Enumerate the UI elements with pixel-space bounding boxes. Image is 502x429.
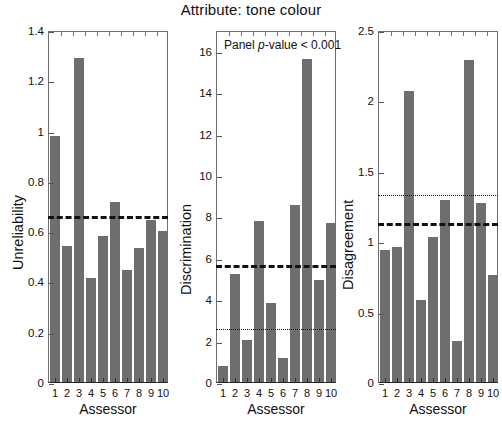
x-tick-label-5: 5 bbox=[268, 388, 274, 399]
y-tick bbox=[49, 183, 54, 184]
bar-assessor-8 bbox=[464, 60, 474, 382]
y-tick bbox=[379, 173, 384, 174]
y-tick-label: 10 bbox=[199, 171, 212, 183]
plot-inner: 00.20.40.60.811.21.412345678910 bbox=[49, 32, 167, 382]
top-minor-tick bbox=[463, 32, 464, 36]
bar-assessor-10 bbox=[158, 231, 168, 382]
x-tick bbox=[55, 378, 56, 382]
plot-area-discrimination: 024681012141612345678910 Panel p-value <… bbox=[216, 31, 336, 383]
y-tick-label: 1.4 bbox=[28, 26, 44, 38]
bar-assessor-2 bbox=[392, 247, 402, 382]
x-tick-label-7: 7 bbox=[454, 388, 460, 399]
x-tick bbox=[409, 378, 410, 382]
y-tick-label: 0.4 bbox=[28, 278, 44, 290]
bar-assessor-3 bbox=[74, 58, 84, 382]
y-tick bbox=[379, 384, 384, 385]
x-tick bbox=[433, 378, 434, 382]
x-axis-title-discrimination: Assessor bbox=[216, 401, 336, 417]
y-tick bbox=[217, 94, 222, 95]
top-minor-tick bbox=[145, 32, 146, 36]
x-tick bbox=[91, 378, 92, 382]
top-minor-tick bbox=[439, 32, 440, 36]
annotation-italic-p: p bbox=[258, 38, 265, 52]
top-minor-tick bbox=[325, 32, 326, 36]
y-tick bbox=[217, 301, 222, 302]
x-tick-label-7: 7 bbox=[292, 388, 298, 399]
x-axis-title-disagreement: Assessor bbox=[378, 401, 498, 417]
top-minor-tick bbox=[109, 32, 110, 36]
bar-assessor-8 bbox=[302, 59, 312, 382]
x-tick bbox=[235, 378, 236, 382]
x-tick bbox=[271, 378, 272, 382]
x-tick bbox=[259, 378, 260, 382]
top-minor-tick bbox=[277, 32, 278, 36]
x-tick-label-3: 3 bbox=[406, 388, 412, 399]
x-tick-label-9: 9 bbox=[478, 388, 484, 399]
top-minor-tick bbox=[313, 32, 314, 36]
y-tick-label: 0.8 bbox=[28, 177, 44, 189]
y-tick bbox=[49, 384, 54, 385]
x-tick-label-10: 10 bbox=[487, 388, 499, 399]
top-minor-tick bbox=[403, 32, 404, 36]
y-axis-title-discrimination: Discrimination bbox=[178, 204, 194, 295]
top-minor-tick bbox=[427, 32, 428, 36]
y-tick-label: 0 bbox=[206, 378, 212, 390]
x-tick-label-1: 1 bbox=[382, 388, 388, 399]
top-minor-tick bbox=[121, 32, 122, 36]
y-tick-label: 14 bbox=[199, 88, 212, 100]
x-tick bbox=[283, 378, 284, 382]
bar-assessor-5 bbox=[266, 303, 276, 382]
bar-assessor-1 bbox=[380, 250, 390, 382]
bar-assessor-4 bbox=[86, 278, 96, 382]
bar-assessor-7 bbox=[290, 205, 300, 382]
y-tick bbox=[49, 334, 54, 335]
bar-assessor-3 bbox=[242, 340, 252, 382]
x-tick-label-6: 6 bbox=[280, 388, 286, 399]
top-minor-tick bbox=[97, 32, 98, 36]
x-tick bbox=[307, 378, 308, 382]
dashed-reference-line bbox=[378, 223, 498, 226]
x-tick bbox=[445, 378, 446, 382]
y-tick-label: 0.2 bbox=[28, 328, 44, 340]
y-tick-label: 1.2 bbox=[28, 77, 44, 89]
bar-series bbox=[379, 32, 497, 382]
x-tick-label-7: 7 bbox=[124, 388, 130, 399]
x-tick-label-6: 6 bbox=[442, 388, 448, 399]
x-tick-label-2: 2 bbox=[232, 388, 238, 399]
y-tick-label: 6 bbox=[206, 254, 212, 266]
y-tick bbox=[49, 283, 54, 284]
y-tick bbox=[379, 314, 384, 315]
bar-assessor-8 bbox=[134, 248, 144, 383]
y-tick bbox=[49, 82, 54, 83]
y-tick-label: 1 bbox=[38, 127, 44, 139]
dotted-reference-line bbox=[216, 329, 336, 330]
y-tick bbox=[217, 384, 222, 385]
bar-assessor-1 bbox=[50, 136, 60, 382]
panel-pvalue-annotation: Panel p-value < 0.001 bbox=[224, 38, 341, 52]
x-tick bbox=[151, 378, 152, 382]
x-tick-label-3: 3 bbox=[76, 388, 82, 399]
panel-discrimination: Discrimination 024681012141612345678910 … bbox=[168, 0, 340, 429]
bar-assessor-4 bbox=[254, 221, 264, 383]
plot-inner: 00.511.522.512345678910 bbox=[379, 32, 497, 382]
x-tick-label-9: 9 bbox=[148, 388, 154, 399]
y-tick bbox=[217, 53, 222, 54]
x-tick-label-1: 1 bbox=[220, 388, 226, 399]
x-tick bbox=[457, 378, 458, 382]
y-tick-label: 16 bbox=[199, 47, 212, 59]
bar-assessor-4 bbox=[416, 300, 426, 382]
y-tick bbox=[217, 218, 222, 219]
x-tick-label-6: 6 bbox=[112, 388, 118, 399]
x-tick bbox=[163, 378, 164, 382]
x-tick-label-5: 5 bbox=[430, 388, 436, 399]
top-minor-tick bbox=[85, 32, 86, 36]
dotted-reference-line bbox=[378, 195, 498, 196]
dashed-reference-line bbox=[48, 216, 168, 219]
x-tick bbox=[295, 378, 296, 382]
annotation-prefix: Panel bbox=[224, 38, 258, 52]
x-tick-label-4: 4 bbox=[88, 388, 94, 399]
top-minor-tick bbox=[289, 32, 290, 36]
x-tick bbox=[493, 378, 494, 382]
dashed-reference-line bbox=[216, 265, 336, 268]
top-minor-tick bbox=[415, 32, 416, 36]
